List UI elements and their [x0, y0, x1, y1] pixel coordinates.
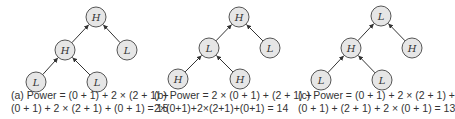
edge-arrow: [358, 24, 374, 41]
tree-node-c-1: H: [341, 38, 361, 58]
tree-node-a-2: L: [117, 40, 137, 60]
edge-arrow: [358, 56, 375, 73]
node-label: H: [60, 45, 70, 56]
nodes-layer: HHLLLHLLHHLHHLL: [26, 6, 422, 92]
edge-arrow: [328, 56, 344, 73]
edge-arrow: [246, 24, 263, 41]
node-label: H: [235, 74, 245, 85]
node-label: L: [205, 43, 213, 54]
node-label: L: [317, 75, 325, 86]
node-label: L: [123, 45, 131, 56]
tree-node-a-0: H: [86, 7, 106, 27]
tree-node-a-1: H: [55, 40, 75, 60]
node-label: H: [91, 12, 101, 23]
node-label: L: [378, 75, 386, 86]
node-label: L: [32, 77, 40, 88]
node-label: H: [346, 43, 356, 54]
caption-b-line2: 2×(0+1)+2×(2+1)+(0+1) = 14: [154, 102, 288, 115]
node-label: L: [377, 11, 385, 22]
tree-node-b-0: H: [229, 7, 249, 27]
caption-a-line1: (a) Power = (0 + 1) + 2 × (2 + 1) +: [11, 89, 169, 102]
tree-node-b-1: L: [199, 38, 219, 58]
edge-arrow: [72, 57, 90, 75]
edge-arrow: [216, 25, 232, 41]
edge-arrow: [185, 55, 202, 72]
tree-node-c-0: L: [371, 6, 391, 26]
tree-node-b-3: H: [168, 69, 188, 89]
edge-arrow: [103, 25, 120, 43]
caption-a-line2: (0 + 1) + 2 × (2 + 1) + (0 + 1) = 15: [11, 102, 168, 115]
tree-node-b-4: H: [230, 69, 250, 89]
tree-node-b-2: L: [260, 38, 280, 58]
edge-arrow: [43, 58, 58, 75]
tree-node-c-2: H: [402, 38, 422, 58]
tree-node-c-3: L: [311, 70, 331, 90]
caption-c-line2: (0 + 1) + (2 + 1) + 2 × (0 + 1) = 13: [298, 102, 455, 115]
edge-arrow: [72, 25, 89, 43]
node-label: H: [173, 74, 183, 85]
node-label: H: [234, 12, 244, 23]
caption-c-line1: (c) Power = (0 + 1) + 2 × (2 + 1) +: [298, 89, 455, 102]
edge-arrow: [388, 24, 405, 41]
node-label: L: [93, 77, 101, 88]
node-label: H: [407, 43, 417, 54]
edge-arrow: [216, 55, 233, 72]
caption-b-line1: (b) Power = 2 × (0 + 1) + (2 + 1) +: [154, 89, 312, 102]
node-label: L: [266, 43, 274, 54]
tree-node-c-4: L: [372, 70, 392, 90]
